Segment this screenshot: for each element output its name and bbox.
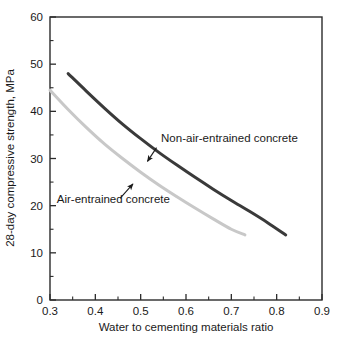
x-tick-label-3: 0.6 (178, 305, 194, 317)
series-label-1: Air-entrained concrete (57, 193, 170, 205)
x-tick-label-6: 0.9 (314, 305, 330, 317)
x-tick-label-2: 0.5 (133, 305, 149, 317)
x-tick-label-0: 0.3 (42, 305, 58, 317)
y-tick-label-5: 50 (30, 58, 43, 70)
y-tick-label-4: 40 (30, 105, 43, 117)
y-tick-label-3: 30 (30, 153, 43, 165)
x-tick-label-1: 0.4 (87, 305, 104, 317)
y-tick-label-6: 60 (30, 11, 43, 23)
x-tick-label-5: 0.8 (269, 305, 285, 317)
y-tick-label-1: 10 (30, 247, 43, 259)
series-label-0: Non-air-entrained concrete (161, 132, 298, 144)
chart-container: 0.30.40.50.60.70.80.9 0102030405060 Non-… (0, 0, 340, 346)
y-tick-label-0: 0 (37, 294, 43, 306)
y-axis-title: 28-day compressive strength, MPa (4, 69, 16, 247)
x-tick-label-4: 0.7 (223, 305, 239, 317)
chart-background (0, 0, 340, 346)
x-axis-title: Water to cementing materials ratio (99, 321, 274, 333)
y-tick-label-2: 20 (30, 200, 43, 212)
compressive-strength-line-chart: 0.30.40.50.60.70.80.9 0102030405060 Non-… (0, 0, 340, 346)
